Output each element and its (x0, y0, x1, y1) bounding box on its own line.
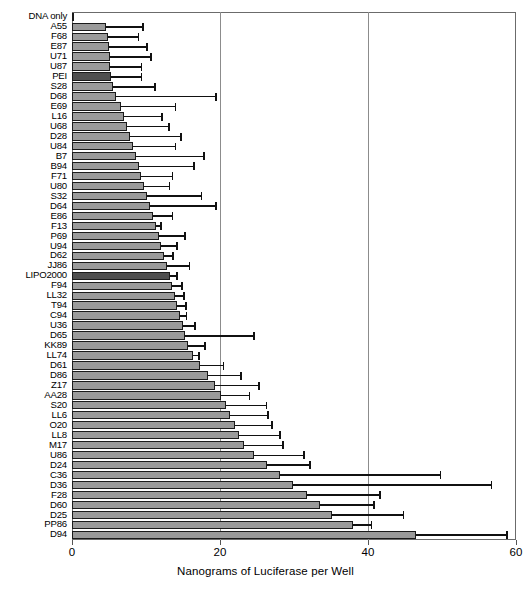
bar-u84 (72, 142, 133, 150)
bar-row (72, 241, 516, 251)
tick-label: 0 (69, 546, 75, 559)
error-bar-cap (185, 302, 187, 310)
bar-row (72, 410, 516, 420)
error-bar-cap (183, 292, 185, 300)
error-bar-line (208, 375, 241, 377)
bar-e86 (72, 212, 153, 220)
error-bar-line (116, 96, 216, 98)
error-bar-line (221, 395, 250, 397)
bar-d60 (72, 501, 320, 509)
bar-d62 (72, 252, 164, 260)
bar-row (72, 520, 516, 530)
error-bar-cap (223, 362, 225, 370)
bar-b7 (72, 152, 136, 160)
bar-row (72, 122, 516, 132)
error-bar-cap (253, 332, 255, 340)
error-bar-cap (279, 431, 281, 439)
bar-u86 (72, 451, 254, 459)
error-bar-cap (180, 133, 182, 141)
error-bar-cap (371, 521, 373, 529)
error-bar-cap (146, 43, 148, 51)
error-bar-cap (258, 382, 260, 390)
bar-row (72, 391, 516, 401)
bar-row (72, 211, 516, 221)
bar-row (72, 490, 516, 500)
error-bar-line (124, 116, 162, 118)
error-bar-cap (189, 262, 191, 270)
error-bar-cap (403, 511, 405, 519)
bar-row (72, 231, 516, 241)
bar-row (72, 161, 516, 171)
error-bar-cap (172, 252, 174, 260)
bar-u71 (72, 52, 110, 60)
bar-b94 (72, 162, 139, 170)
error-bar-line (320, 504, 374, 506)
bar-row (72, 72, 516, 82)
error-bar-line (188, 345, 205, 347)
bar-u36 (72, 321, 183, 329)
bar-d94 (72, 531, 416, 539)
error-bar-cap (194, 322, 196, 330)
bar-d28 (72, 132, 130, 140)
error-bar-cap (201, 192, 203, 200)
bar-row (72, 191, 516, 201)
error-bar-cap (154, 83, 156, 91)
error-bar-cap (204, 342, 206, 350)
bar-row (72, 530, 516, 540)
luciferase-bar-chart: DNA onlyA55F68E87U71U87PEIS28D68E69L16U6… (0, 0, 531, 598)
bar-kk89 (72, 341, 188, 349)
error-bar-cap (160, 222, 162, 230)
error-bar-cap (172, 212, 174, 220)
bar-u68 (72, 122, 127, 130)
bar-m17 (72, 441, 244, 449)
bar-row (72, 321, 516, 331)
error-bar-line (200, 365, 224, 367)
bar-dna-only (72, 13, 74, 21)
bar-d24 (72, 461, 267, 469)
error-bar-cap (181, 282, 183, 290)
bar-row (72, 510, 516, 520)
bar-pp86 (72, 521, 353, 529)
error-bar-line (110, 66, 141, 68)
bar-row (72, 181, 516, 191)
bar-row (72, 112, 516, 122)
bar-row (72, 420, 516, 430)
error-bar-cap (168, 123, 170, 131)
error-bar-cap (193, 162, 195, 170)
category-label: D94 (0, 529, 67, 539)
bar-p69 (72, 232, 159, 240)
bar-row (72, 251, 516, 261)
error-bar-cap (303, 451, 305, 459)
bar-row (72, 450, 516, 460)
bar-d61 (72, 361, 200, 369)
error-bar-cap (186, 312, 188, 320)
error-bar-cap (379, 491, 381, 499)
x-axis-title: Nanograms of Luciferase per Well (0, 565, 531, 577)
bar-d64 (72, 202, 150, 210)
error-bar-line (185, 335, 254, 337)
bar-row (72, 142, 516, 152)
bar-row (72, 311, 516, 321)
error-bar-cap (309, 461, 311, 469)
bar-row (72, 132, 516, 142)
error-bar-line (106, 26, 143, 28)
error-bar-cap (175, 103, 177, 111)
error-bar-cap (266, 402, 268, 410)
bar-z17 (72, 381, 215, 389)
error-bar-line (159, 235, 186, 237)
error-bar-line (307, 494, 380, 496)
bar-row (72, 341, 516, 351)
error-bar-line (121, 106, 176, 108)
error-bar-line (153, 215, 173, 217)
bar-row (72, 82, 516, 92)
error-bar-cap (150, 53, 152, 61)
category-label: D60 (0, 500, 67, 510)
bar-ll32 (72, 292, 175, 300)
bar-row (72, 480, 516, 490)
error-bar-line (127, 126, 169, 128)
error-bar-cap (373, 501, 375, 509)
error-bar-line (111, 76, 141, 78)
error-bar-line (235, 425, 272, 427)
bar-row (72, 201, 516, 211)
bar-rows (72, 12, 516, 540)
